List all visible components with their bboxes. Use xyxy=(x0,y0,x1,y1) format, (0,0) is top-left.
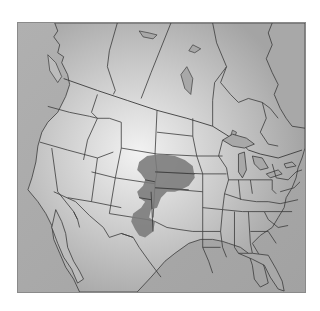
map-canvas xyxy=(18,23,305,292)
map-frame xyxy=(17,22,306,293)
